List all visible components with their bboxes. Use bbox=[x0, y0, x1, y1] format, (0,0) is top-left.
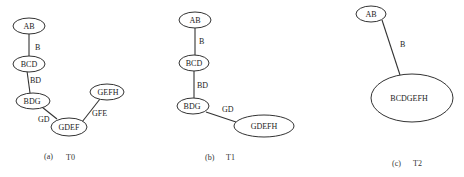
caption-letter-b: (b) bbox=[205, 153, 215, 162]
caption-title-a: T0 bbox=[66, 153, 75, 162]
caption-title-b: T1 bbox=[226, 153, 235, 162]
node-label-b-ab: AB bbox=[189, 16, 200, 25]
edge-label-a-gfe: GFE bbox=[92, 109, 107, 118]
node-label-a-gdef: GDEF bbox=[59, 123, 80, 132]
junction-tree-diagram: AB BCD BDG GDEF GEFH B BD GD GFE (a) T0 … bbox=[0, 0, 464, 177]
node-label-b-gdefh: GDEFH bbox=[251, 122, 278, 131]
edge-label-a-gd: GD bbox=[38, 115, 50, 124]
node-label-b-bcd: BCD bbox=[186, 59, 203, 68]
edge-label-b-bd: BD bbox=[197, 81, 208, 90]
caption-letter-a: (a) bbox=[44, 152, 53, 161]
node-label-b-bdg: BDG bbox=[184, 102, 201, 111]
panel-c: AB BCDGEFH B (c) T2 bbox=[356, 6, 453, 168]
node-label-c-ab: AB bbox=[365, 10, 376, 19]
edge-label-b-gd: GD bbox=[222, 105, 234, 114]
node-label-a-bcd: BCD bbox=[21, 60, 38, 69]
edge-label-b-b: B bbox=[199, 37, 204, 46]
node-label-c-bcdgefh: BCDGEFH bbox=[390, 94, 428, 103]
caption-letter-c: (c) bbox=[392, 159, 401, 168]
panel-b: AB BCD BDG GDEFH B BD GD (b) T1 bbox=[177, 12, 294, 162]
caption-title-c: T2 bbox=[413, 159, 422, 168]
node-label-a-bdg: BDG bbox=[24, 97, 41, 106]
node-label-a-gefh: GEFH bbox=[98, 88, 119, 97]
edge-label-a-bd: BD bbox=[30, 76, 41, 85]
edge-c-ab-bcdgefh bbox=[382, 20, 400, 75]
panel-a: AB BCD BDG GDEF GEFH B BD GD GFE (a) T0 bbox=[13, 18, 124, 162]
edge-label-c-b: B bbox=[400, 40, 405, 49]
edge-label-a-b: B bbox=[35, 43, 40, 52]
node-label-a-ab: AB bbox=[23, 22, 34, 31]
